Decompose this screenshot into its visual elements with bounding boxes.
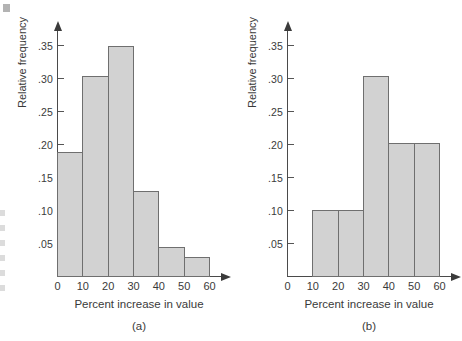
histogram-bar — [158, 247, 184, 277]
x-tick-label-a: 0 — [54, 280, 60, 292]
y-tick-label-b: .20 — [268, 139, 283, 151]
y-tick-label-a: .20 — [38, 139, 53, 151]
y-tick-a: .30 — [58, 78, 64, 79]
y-tick-b: .15 — [288, 177, 294, 178]
y-axis-line-b — [287, 30, 288, 277]
y-tick-b: .35 — [288, 45, 294, 46]
x-axis-title-a: Percent increase in value — [57, 298, 221, 310]
y-axis-title-b: Relative frequency — [246, 94, 258, 108]
y-tick-label-a: .30 — [38, 73, 53, 85]
x-tick-label-b: 60 — [433, 280, 445, 292]
y-tick-a: .20 — [58, 144, 64, 145]
y-tick-label-a: .25 — [38, 106, 53, 118]
y-tick-b: .10 — [288, 210, 294, 211]
x-tick-label-b: 20 — [332, 280, 344, 292]
histogram-bar — [388, 143, 414, 277]
y-tick-a: .35 — [58, 45, 64, 46]
histogram-bar — [82, 76, 108, 277]
histogram-bar — [184, 257, 210, 277]
x-tick-label-a: 20 — [102, 280, 114, 292]
y-tick-label-b: .25 — [268, 106, 283, 118]
y-tick-a: .25 — [58, 111, 64, 112]
x-tick-label-b: 10 — [307, 280, 319, 292]
y-tick-b: .20 — [288, 144, 294, 145]
histogram-panel-b: Relative frequency .05.10.15.20.25.30.35… — [231, 0, 462, 341]
x-tick-label-b: 50 — [408, 280, 420, 292]
y-tick-label-b: .10 — [268, 205, 283, 217]
panel-label-b: (b) — [287, 320, 451, 332]
histogram-bar — [414, 143, 440, 277]
x-tick-label-a: 30 — [127, 280, 139, 292]
histogram-bar — [108, 46, 134, 277]
x-tick-b: 0 — [287, 270, 288, 276]
x-tick-label-b: 0 — [284, 280, 290, 292]
x-tick-label-a: 40 — [153, 280, 165, 292]
x-tick-label-a: 50 — [178, 280, 190, 292]
histogram-bar — [57, 152, 83, 277]
plot-area-a: .05.10.15.20.25.30.35 0102030405060 — [57, 30, 209, 277]
y-tick-label-a: .05 — [38, 238, 53, 250]
y-tick-label-a: .35 — [38, 40, 53, 52]
y-tick-b: .25 — [288, 111, 294, 112]
x-tick-label-b: 40 — [383, 280, 395, 292]
histogram-bar — [133, 191, 159, 277]
y-tick-label-a: .10 — [38, 205, 53, 217]
y-tick-b: .05 — [288, 243, 294, 244]
x-tick-label-b: 30 — [357, 280, 369, 292]
y-axis-title-a: Relative frequency — [16, 94, 28, 108]
y-tick-label-b: .30 — [268, 73, 283, 85]
histogram-bar — [363, 76, 389, 277]
y-tick-label-b: .35 — [268, 40, 283, 52]
plot-area-b: .05.10.15.20.25.30.35 0102030405060 — [287, 30, 439, 277]
x-tick-label-a: 10 — [77, 280, 89, 292]
y-tick-b: .30 — [288, 78, 294, 79]
histogram-bar — [312, 210, 338, 277]
histogram-bar — [338, 210, 364, 277]
x-axis-title-b: Percent increase in value — [287, 298, 451, 310]
figure-page: Relative frequency .05.10.15.20.25.30.35… — [0, 0, 462, 341]
y-tick-label-b: .15 — [268, 172, 283, 184]
panel-label-a: (a) — [57, 320, 221, 332]
y-tick-label-a: .15 — [38, 172, 53, 184]
y-tick-label-b: .05 — [268, 238, 283, 250]
x-tick-label-a: 60 — [203, 280, 215, 292]
histogram-panel-a: Relative frequency .05.10.15.20.25.30.35… — [0, 0, 231, 341]
